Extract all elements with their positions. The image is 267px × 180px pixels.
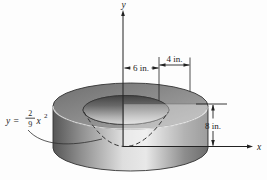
dim-label-4in: 4 in. <box>166 54 182 64</box>
equation-variable: x <box>36 116 42 126</box>
equation-numerator: 2 <box>28 109 32 118</box>
cross-section-plane <box>124 104 208 147</box>
equation-equals: = <box>14 116 19 126</box>
dim-label-8in: 8 in. <box>205 121 221 131</box>
y-axis-label: y <box>120 0 126 10</box>
dim-label-6in: 6 in. <box>133 63 149 73</box>
equation-exponent: 2 <box>44 112 48 120</box>
x-axis-label: x <box>256 142 262 152</box>
equation-lhs: y <box>5 116 11 126</box>
figure-canvas: 6 in. 4 in. 8 in. y = 2 9 x 2 y x <box>0 0 267 180</box>
equation-denominator: 9 <box>28 120 32 129</box>
solid-of-revolution-diagram: 6 in. 4 in. 8 in. y = 2 9 x 2 y x <box>0 0 267 180</box>
